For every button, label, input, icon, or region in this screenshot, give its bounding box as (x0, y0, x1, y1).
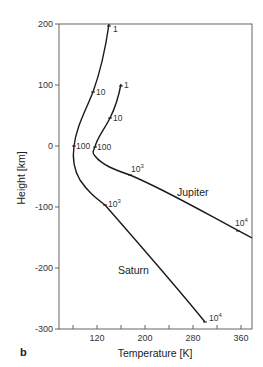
jupiter-ann-1000: 103 (131, 163, 144, 174)
jupiter-label: Jupiter (177, 186, 209, 198)
plot-frame (59, 24, 252, 329)
x-tick-label: 200 (137, 333, 152, 343)
jupiter-ann-100: 100 (97, 142, 111, 152)
x-axis (73, 325, 241, 329)
x-tick-label: 280 (185, 333, 200, 343)
x-tick-label: 360 (233, 333, 248, 343)
saturn-ann-1: 1 (113, 24, 118, 34)
saturn-label: Saturn (118, 264, 149, 276)
x-tick-label: 120 (89, 333, 104, 343)
y-tick-label: -200 (35, 263, 53, 273)
x-axis-title: Temperature [K] (118, 347, 193, 359)
jupiter-ann-10000: 104 (235, 217, 248, 228)
panel-label: b (20, 346, 27, 358)
jupiter-pressure-labels: 1 10 100 103 104 (97, 80, 248, 228)
y-tick-label: -100 (35, 202, 53, 212)
jupiter-ann-1: 1 (124, 80, 129, 90)
y-axis (55, 24, 59, 329)
saturn-ann-10: 10 (96, 87, 106, 97)
y-tick-label: 100 (38, 80, 53, 90)
jupiter-curve (93, 84, 252, 238)
y-axis-title: Height [km] (15, 151, 27, 204)
y-tick-label: 0 (48, 141, 53, 151)
jupiter-ann-10: 10 (113, 113, 123, 123)
x-tick-labels: 120 200 280 360 (89, 333, 248, 343)
chart-canvas: 200 100 0 -100 -200 -300 120 200 280 360… (0, 0, 263, 367)
saturn-ann-10000: 104 (209, 312, 222, 323)
y-tick-label: -300 (35, 324, 53, 334)
y-tick-label: 200 (38, 19, 53, 29)
saturn-pressure-labels: 1 10 100 103 104 (76, 24, 222, 323)
saturn-pressure-ticks (72, 26, 207, 322)
saturn-ann-100: 100 (76, 141, 90, 151)
saturn-ann-1000: 103 (108, 198, 121, 209)
y-tick-labels: 200 100 0 -100 -200 -300 (35, 19, 53, 334)
